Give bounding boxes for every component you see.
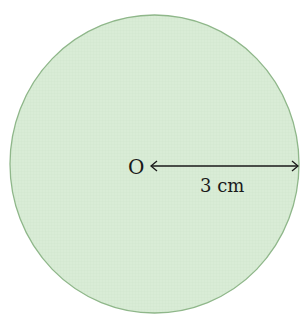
radius-label: 3 cm bbox=[200, 175, 244, 196]
circle-diagram: O 3 cm bbox=[0, 0, 302, 314]
circle-shape bbox=[10, 15, 299, 313]
center-label: O bbox=[128, 155, 144, 179]
